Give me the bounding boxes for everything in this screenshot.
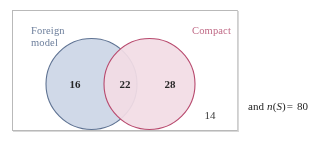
note-total-value: 80 <box>297 100 308 112</box>
universal-set-frame: Foreign model Compact 16 22 28 14 <box>12 10 238 131</box>
note-prefix: and <box>248 100 267 112</box>
note-equals-sign: = <box>286 100 294 112</box>
set-label-compact: Compact <box>192 25 231 37</box>
set-label-foreign-model: Foreign model <box>31 25 65 48</box>
region-count-intersection: 22 <box>112 78 138 90</box>
region-count-compact-only: 28 <box>157 78 183 90</box>
region-count-foreign-only: 16 <box>62 78 88 90</box>
region-count-outside: 14 <box>197 109 223 121</box>
total-count-note: and n(S)= 80 <box>248 100 308 112</box>
